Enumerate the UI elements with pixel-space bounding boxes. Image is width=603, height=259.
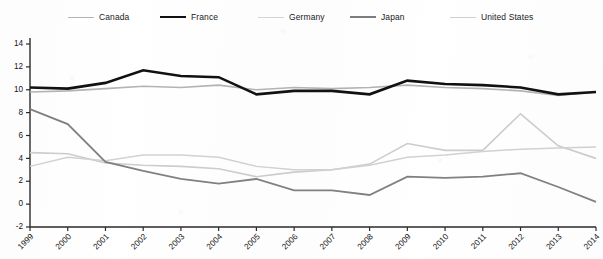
series-line-united-states xyxy=(30,114,596,177)
y-tick-label: 10 xyxy=(14,85,24,94)
legend-swatch-germany-icon xyxy=(258,17,284,18)
x-tick-label: 2004 xyxy=(205,232,225,252)
legend-entry-germany[interactable]: Germany xyxy=(258,12,325,22)
y-tick-label: -2 xyxy=(16,222,24,231)
x-tick-label: 2007 xyxy=(318,232,338,252)
legend-entry-united-states[interactable]: United States xyxy=(450,12,533,22)
x-tick-label: 2010 xyxy=(431,232,451,252)
x-axis: 1999200020012002200320042005200620072008… xyxy=(16,227,602,251)
legend-label: France xyxy=(191,12,218,22)
series-lines xyxy=(30,70,596,202)
y-tick-label: 6 xyxy=(18,131,23,140)
x-tick-label: 2008 xyxy=(356,232,376,252)
y-tick-label: 0 xyxy=(18,199,23,208)
plot-area: -202468101214 19992000200120022003200420… xyxy=(0,30,603,259)
x-tick-label: 2009 xyxy=(394,232,414,252)
legend-entry-japan[interactable]: Japan xyxy=(350,12,405,22)
y-tick-label: 4 xyxy=(18,154,23,163)
x-tick-label: 2012 xyxy=(507,232,527,252)
x-tick-label: 1999 xyxy=(16,232,36,252)
x-tick-label: 2005 xyxy=(243,232,263,252)
chart-legend: CanadaFranceGermanyJapanUnited States xyxy=(0,6,603,28)
series-line-germany xyxy=(30,147,596,170)
y-tick-label: 12 xyxy=(14,62,24,71)
y-tick-label: 14 xyxy=(14,39,24,48)
legend-swatch-canada-icon xyxy=(68,17,94,18)
x-tick-label: 2000 xyxy=(54,232,74,252)
plot-svg: -202468101214 19992000200120022003200420… xyxy=(0,30,603,259)
y-tick-label: 8 xyxy=(18,108,23,117)
x-tick-label: 2003 xyxy=(167,232,187,252)
x-tick-label: 2002 xyxy=(129,232,149,252)
legend-label: Canada xyxy=(99,12,129,22)
x-tick-label: 2013 xyxy=(544,232,564,252)
x-tick-label: 2001 xyxy=(92,232,112,252)
legend-entry-canada[interactable]: Canada xyxy=(68,12,129,22)
legend-swatch-france-icon xyxy=(160,16,186,18)
y-tick-label: 2 xyxy=(18,176,23,185)
line-chart: CanadaFranceGermanyJapanUnited States -2… xyxy=(0,0,603,259)
legend-label: Japan xyxy=(381,12,405,22)
y-axis: -202468101214 xyxy=(14,38,30,231)
x-tick-label: 2011 xyxy=(469,232,488,251)
x-tick-label: 2014 xyxy=(582,232,602,252)
legend-label: United States xyxy=(481,12,533,22)
legend-swatch-united-states-icon xyxy=(450,17,476,18)
legend-entry-france[interactable]: France xyxy=(160,12,218,22)
legend-label: Germany xyxy=(289,12,325,22)
x-tick-label: 2006 xyxy=(280,232,300,252)
legend-swatch-japan-icon xyxy=(350,16,376,18)
